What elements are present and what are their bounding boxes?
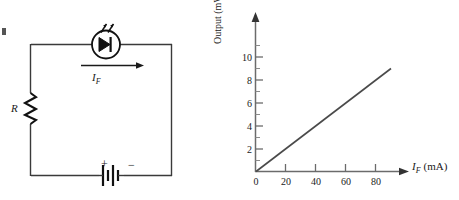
x-tick-label-40: 40 xyxy=(307,176,325,187)
y-axis-label: Output (mW) xyxy=(213,0,223,44)
x-tick-label-0: 0 xyxy=(247,176,265,187)
resistor-symbol xyxy=(25,93,36,124)
x-tick-label-60: 60 xyxy=(337,176,355,187)
current-arrow xyxy=(81,62,144,68)
battery-plus-label: + xyxy=(101,158,108,170)
current-arrow-head xyxy=(136,62,144,68)
x-tick-label-80: 80 xyxy=(367,176,385,187)
battery-minus-label: − xyxy=(128,159,135,171)
x-major-ticks xyxy=(286,164,376,172)
y-tick-label-4: 4 xyxy=(236,121,252,132)
data-line-series-1 xyxy=(256,69,391,172)
x-axis-label-unit: (mA) xyxy=(424,160,448,172)
y-tick-label-2: 2 xyxy=(236,144,252,155)
edge-marker xyxy=(2,28,6,35)
x-axis-label-subscript: F xyxy=(416,166,421,175)
x-axis-label: IF(mA) xyxy=(412,161,447,175)
y-tick-label-10: 10 xyxy=(236,52,252,63)
current-label-subscript: F xyxy=(96,77,101,86)
y-tick-label-6: 6 xyxy=(236,98,252,109)
y-axis-arrowhead xyxy=(252,12,260,22)
output-vs-current-chart xyxy=(252,12,409,175)
y-major-ticks xyxy=(256,57,264,149)
x-axis-arrowhead xyxy=(399,168,409,175)
y-tick-label-8: 8 xyxy=(236,75,252,86)
current-label: IF xyxy=(92,72,101,86)
figure-canvas xyxy=(0,0,459,200)
circuit-diagram xyxy=(2,24,172,186)
x-tick-label-20: 20 xyxy=(277,176,295,187)
resistor-label: R xyxy=(11,103,18,114)
